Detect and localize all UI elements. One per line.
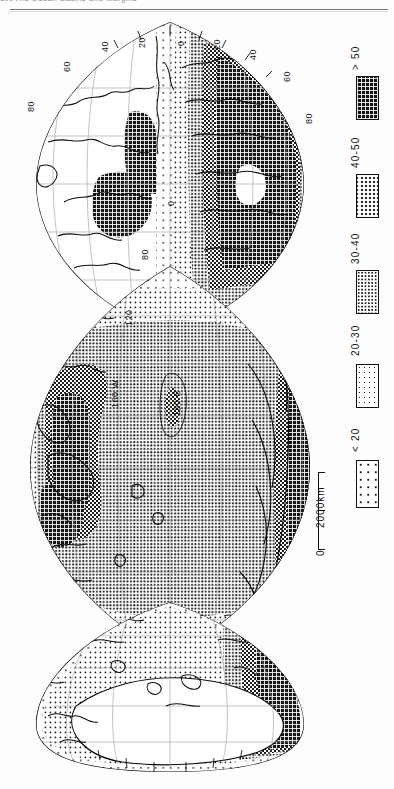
graticule-label-20-e-top: 20: [212, 39, 222, 50]
graticule-label-120-mid: 120: [124, 309, 134, 326]
world-map-svg: [4, 16, 334, 774]
legend-swatch-30-40: [356, 270, 379, 314]
legend-swatch-lt20: [356, 460, 379, 508]
distance-scale: 0 2000km: [306, 466, 332, 558]
graticule-label-160e-mid: 160 E: [172, 390, 182, 416]
page-canvas: 100 The Ocean Basins and Margins: [0, 0, 394, 789]
graticule-label-160w-mid: 160 W: [110, 379, 120, 408]
running-head-title: The Ocean Basins and Margins: [14, 0, 137, 3]
legend-swatch-40-50: [356, 174, 379, 218]
legend-label-gt50: > 50: [350, 45, 361, 70]
graticule-label-40-w-top: 40: [100, 41, 110, 52]
graticule-label-80-w-top: 80: [26, 101, 36, 112]
graticule-label-80-mid: 80: [140, 249, 150, 260]
map-figure: 80 60 40 20 0 20 40 60 80 0 80 120 160 W…: [0, 14, 394, 776]
graticule-label-60-e-top: 60: [282, 71, 292, 82]
folio-number: 100: [0, 0, 13, 3]
graticule-label-20-w-top: 20: [137, 37, 147, 48]
legend-label-40-50: 40-50: [350, 136, 361, 168]
legend-swatch-gt50: [356, 76, 379, 120]
legend-label-30-40: 30-40: [350, 232, 361, 264]
graticule-label-0-top: 0: [176, 40, 186, 46]
scale-label-max: 2000km: [315, 486, 326, 528]
graticule-label-40-e-top: 40: [248, 49, 258, 60]
graticule-label-80-e-top: 80: [304, 113, 314, 124]
header-rule-shadow: [10, 11, 388, 12]
scale-tick-max: [318, 472, 325, 473]
graticule-label-0-interior: 0: [166, 200, 176, 206]
legend-label-lt20: < 20: [350, 427, 361, 452]
running-head: 100 The Ocean Basins and Margins: [0, 0, 394, 9]
map-canvas: 80 60 40 20 0 20 40 60 80 0 80 120 160 W…: [4, 16, 334, 774]
legend-swatch-20-30: [356, 364, 379, 408]
lobe-south: [4, 596, 334, 774]
scale-label-min: 0: [315, 549, 326, 556]
graticule-label-60-w-top: 60: [62, 61, 72, 72]
legend-label-20-30: 20-30: [350, 324, 361, 356]
header-rule: [10, 9, 388, 10]
class-legend: > 50 40-50 30-40 20-30 < 20: [336, 14, 394, 776]
